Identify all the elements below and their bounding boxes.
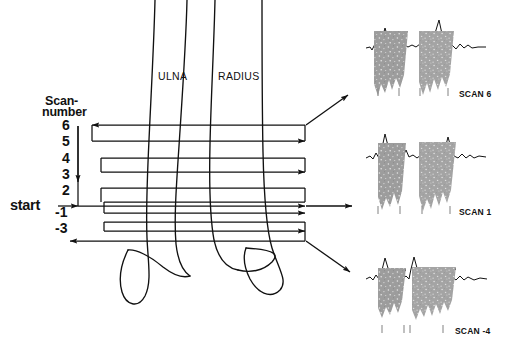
scan-number-5: 5 (62, 134, 70, 148)
radius-label: RADIUS (218, 71, 259, 82)
scan-number-4: 4 (62, 151, 70, 165)
radius-outline-left (210, 0, 238, 270)
ulna-outline-right (175, 0, 190, 276)
ulna-outline-left (120, 0, 155, 304)
scan-1-ticks (378, 206, 450, 214)
forearm-scan-path-figure (0, 0, 514, 353)
start-label: start (10, 198, 40, 213)
connectors-group (306, 95, 352, 272)
bone-outlines-group (120, 0, 283, 304)
scan-number-2: 2 (62, 183, 70, 197)
radius-distal-curve (238, 248, 275, 271)
scan-number--1: -1 (55, 205, 67, 219)
ulna-label: ULNA (158, 71, 187, 82)
connector-to-scan-6 (306, 95, 348, 125)
scan-number-6: 6 (62, 118, 70, 132)
scan-number-3: 3 (62, 167, 70, 181)
scan-panel-1 (366, 134, 486, 214)
scan--4-band-radius (411, 266, 457, 322)
scan-1-band-radius (418, 141, 457, 213)
scan-number--3: -3 (55, 221, 67, 235)
scan--4-ticks (382, 325, 443, 333)
scan-panel--4-label: SCAN -4 (455, 327, 490, 336)
scan-panel--4 (366, 257, 487, 333)
scan-panel-1-label: SCAN 1 (459, 208, 491, 217)
scan--4-band-ulna (377, 267, 407, 323)
scan-panel-6-label: SCAN 6 (459, 90, 491, 99)
scan-6-ticks (378, 88, 448, 96)
scan-6-band-radius (418, 31, 456, 101)
scan-1-band-ulna (377, 142, 407, 214)
connector-to-scan--4 (306, 241, 350, 272)
